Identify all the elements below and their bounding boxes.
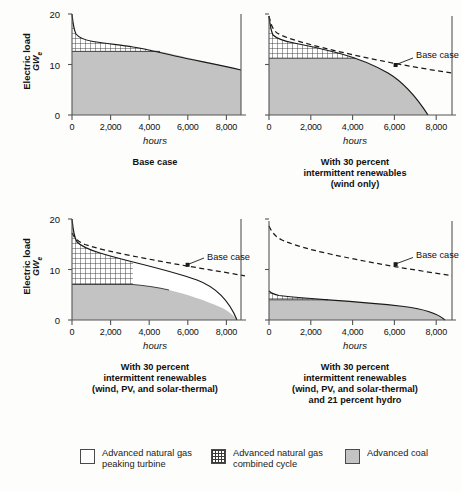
legend-swatch-advanced-coal-icon <box>345 449 360 464</box>
x-axis-label: hours <box>143 340 167 351</box>
x-tick-8000: 8,000 <box>425 122 447 132</box>
y-tick-0: 0 <box>36 110 60 121</box>
plot-area-wind-pv-solar-thermal-hydro <box>262 213 458 331</box>
x-axis-ticks <box>269 115 436 120</box>
x-axis-ticks <box>269 320 436 325</box>
panel-wind-pv-solar-thermal-hydro: Base case 0 2,000 4,000 6,000 8,000 hour… <box>240 205 461 420</box>
x-tick-0: 0 <box>267 122 272 132</box>
legend: Advanced natural gas peaking turbine Adv… <box>0 440 461 485</box>
y-tick-10: 10 <box>36 264 60 275</box>
annotation-marker-dot <box>186 263 190 267</box>
x-tick-2000: 2,000 <box>300 327 322 337</box>
x-tick-4000: 4,000 <box>342 122 364 132</box>
x-tick-6000: 6,000 <box>177 122 199 132</box>
base-case-annotation: Base case <box>416 250 459 260</box>
legend-swatch-peaking-turbine-icon <box>80 449 95 464</box>
panel-caption: With 30 percent intermittent renewables … <box>40 362 270 395</box>
y-tick-20: 20 <box>36 214 60 225</box>
x-tick-6000: 6,000 <box>384 122 406 132</box>
panel-caption: Base case <box>55 157 255 168</box>
y-axis-ticks <box>68 219 72 320</box>
load-duration-curve-figure: Electric load GWe 20 10 0 <box>0 0 461 492</box>
annotation-leader-line <box>396 58 413 65</box>
y-tick-20: 20 <box>36 9 60 20</box>
x-tick-8000: 8,000 <box>216 327 238 337</box>
x-tick-2000: 2,000 <box>100 122 122 132</box>
x-tick-0: 0 <box>267 327 272 337</box>
annotation-leader-line <box>188 258 204 264</box>
y-tick-0: 0 <box>36 315 60 326</box>
legend-item-combined-cycle: Advanced natural gas combined cycle <box>211 448 323 471</box>
panel-wind-pv-solar-thermal: Electric load GWe 20 10 0 <box>0 205 240 420</box>
panel-caption: With 30 percent intermittent renewables … <box>240 362 461 405</box>
annotation-leader-line <box>396 258 413 264</box>
plot-area-wind-only <box>262 8 458 126</box>
plot-area-wind-pv-solar-thermal <box>65 213 248 331</box>
x-axis-ticks <box>72 115 226 120</box>
x-tick-8000: 8,000 <box>216 122 238 132</box>
y-axis-ticks <box>68 14 72 115</box>
y-axis-ticks <box>265 14 269 115</box>
area-coal <box>269 300 445 320</box>
legend-label-combined-cycle: Advanced natural gas combined cycle <box>233 448 323 471</box>
legend-swatch-combined-cycle-icon <box>211 449 226 464</box>
legend-item-advanced-coal: Advanced coal <box>345 448 428 464</box>
base-case-annotation: Base case <box>416 50 459 60</box>
area-coal <box>269 58 428 115</box>
annotation-marker-dot <box>394 262 398 266</box>
legend-label-advanced-coal: Advanced coal <box>367 448 428 459</box>
area-combined-cycle <box>72 14 160 51</box>
annotation-marker-dot <box>394 63 398 67</box>
y-axis-ticks <box>265 219 269 320</box>
panel-wind-only: Base case 0 2,000 4,000 6,000 8,000 hour… <box>240 0 461 200</box>
x-tick-4000: 4,000 <box>138 122 160 132</box>
area-coal <box>72 51 241 115</box>
x-tick-4000: 4,000 <box>138 327 160 337</box>
x-axis-ticks <box>72 320 226 325</box>
legend-label-peaking-turbine: Advanced natural gas peaking turbine <box>102 448 192 471</box>
x-tick-0: 0 <box>70 327 75 337</box>
x-tick-4000: 4,000 <box>342 327 364 337</box>
area-combined-cycle <box>72 219 133 285</box>
x-tick-0: 0 <box>70 122 75 132</box>
panel-caption: With 30 percent intermittent renewables … <box>250 157 460 190</box>
x-tick-2000: 2,000 <box>300 122 322 132</box>
y-tick-10: 10 <box>36 59 60 70</box>
x-tick-8000: 8,000 <box>425 327 447 337</box>
x-axis-label: hours <box>343 135 367 146</box>
x-tick-6000: 6,000 <box>384 327 406 337</box>
plot-area-base-case <box>65 8 248 126</box>
x-axis-label: hours <box>143 135 167 146</box>
legend-item-peaking-turbine: Advanced natural gas peaking turbine <box>80 448 192 471</box>
x-tick-6000: 6,000 <box>177 327 199 337</box>
panel-base-case: Electric load GWe 20 10 0 <box>0 0 240 200</box>
x-tick-2000: 2,000 <box>100 327 122 337</box>
x-axis-label: hours <box>343 340 367 351</box>
